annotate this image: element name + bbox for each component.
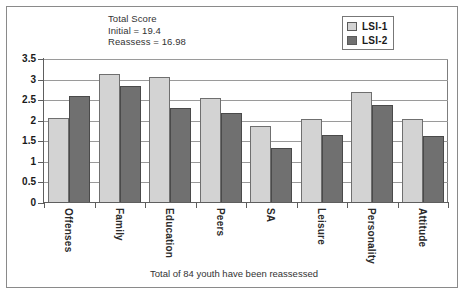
x-axis-tick-mark <box>246 203 247 208</box>
bar-family-lsi-1 <box>99 74 120 203</box>
annotation-line-reassess: Reassess = 16.98 <box>108 36 186 48</box>
bar-education-lsi-1 <box>149 77 170 203</box>
y-axis-tick-mark <box>38 182 43 183</box>
y-axis-tick-label: 2 <box>0 115 36 126</box>
y-axis-tick-label: 1.5 <box>0 135 36 146</box>
annotation-line-total-score: Total Score <box>108 13 186 25</box>
x-axis-tick-mark <box>297 203 298 208</box>
bar-attitude-lsi-1 <box>402 119 423 203</box>
y-axis-tick-mark <box>38 203 43 204</box>
x-axis-category-label-sa: SA <box>265 208 276 222</box>
bar-offenses-lsi-2 <box>69 96 90 203</box>
bar-family-lsi-2 <box>120 86 141 203</box>
x-axis-category-label-leisure: Leisure <box>316 208 327 245</box>
x-axis-tick-mark <box>95 203 96 208</box>
y-axis-line <box>43 58 44 204</box>
x-axis-tick-mark <box>145 203 146 208</box>
y-axis-tick-mark <box>38 141 43 142</box>
y-axis-tick-label: 1 <box>0 156 36 167</box>
chart-legend: LSI-1 LSI-2 <box>342 16 394 50</box>
legend-label-lsi-2: LSI-2 <box>362 35 387 46</box>
bar-leisure-lsi-2 <box>322 135 343 203</box>
y-axis-tick-label: 0.5 <box>0 176 36 187</box>
legend-swatch-icon-lsi-2 <box>347 36 357 45</box>
bar-personality-lsi-1 <box>351 92 372 203</box>
plot-border-right <box>447 59 448 203</box>
bar-attitude-lsi-2 <box>423 136 444 203</box>
chart-footer-caption: Total of 84 youth have been reassessed <box>0 268 468 279</box>
plot-area <box>44 59 448 203</box>
x-axis-category-label-education: Education <box>164 208 175 258</box>
bar-sa-lsi-2 <box>271 148 292 203</box>
bar-leisure-lsi-1 <box>301 119 322 203</box>
y-axis-tick-label: 0 <box>0 197 36 208</box>
y-axis-tick-label: 3 <box>0 74 36 85</box>
y-axis-tick-mark <box>38 162 43 163</box>
x-axis-category-label-offenses: Offenses <box>63 208 74 252</box>
bar-education-lsi-2 <box>170 108 191 203</box>
bar-peers-lsi-1 <box>200 98 221 203</box>
y-axis-tick-label: 2.5 <box>0 94 36 105</box>
legend-swatch-icon-lsi-1 <box>347 22 357 31</box>
y-axis-tick-label: 3.5 <box>0 53 36 64</box>
chart-screenshot: Total Score Initial = 19.4 Reassess = 16… <box>0 0 468 299</box>
y-axis-tick-mark <box>38 80 43 81</box>
y-axis-tick-mark <box>38 100 43 101</box>
y-axis-tick-mark <box>38 59 43 60</box>
x-axis-tick-mark <box>347 203 348 208</box>
bar-sa-lsi-1 <box>250 126 271 203</box>
bar-personality-lsi-2 <box>372 105 393 203</box>
x-axis-category-label-attitude: Attitude <box>417 208 428 247</box>
x-axis-category-label-personality: Personality <box>366 208 377 264</box>
gridline <box>44 59 448 60</box>
x-axis-tick-mark <box>398 203 399 208</box>
legend-item-lsi-2: LSI-2 <box>347 34 387 46</box>
total-score-annotation: Total Score Initial = 19.4 Reassess = 16… <box>108 13 186 48</box>
x-axis-category-label-family: Family <box>114 208 125 241</box>
x-axis-tick-mark <box>196 203 197 208</box>
x-axis-tick-mark <box>448 203 449 208</box>
bar-offenses-lsi-1 <box>48 118 69 203</box>
x-axis-category-label-peers: Peers <box>215 208 226 236</box>
legend-item-lsi-1: LSI-1 <box>347 20 387 32</box>
bar-peers-lsi-2 <box>221 113 242 204</box>
y-axis-tick-mark <box>38 121 43 122</box>
legend-label-lsi-1: LSI-1 <box>362 21 387 32</box>
x-axis-tick-mark <box>44 203 45 208</box>
annotation-line-initial: Initial = 19.4 <box>108 25 186 37</box>
